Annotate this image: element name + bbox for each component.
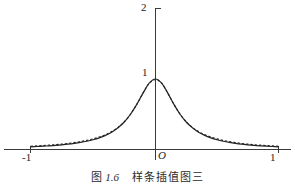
y-axis-one-label: 1 <box>142 67 148 78</box>
curve-spline-dashed <box>31 80 279 147</box>
caption-text: 样条插值图三 <box>132 171 204 183</box>
caption-prefix: 图 <box>91 171 102 183</box>
x-axis-neg-one-label: -1 <box>22 152 31 163</box>
figure-caption: 图 1.6 样条插值图三 <box>0 171 295 185</box>
curve-function-solid <box>31 79 279 147</box>
caption-number: 1.6 <box>105 171 119 183</box>
y-axis-top-label: 2 <box>141 2 147 13</box>
x-axis-pos-one-label: 1 <box>270 152 276 163</box>
plot-canvas <box>0 0 295 185</box>
figure-container: 2 1 O -1 1 图 1.6 样条插值图三 <box>0 0 295 185</box>
origin-label: O <box>158 150 166 161</box>
